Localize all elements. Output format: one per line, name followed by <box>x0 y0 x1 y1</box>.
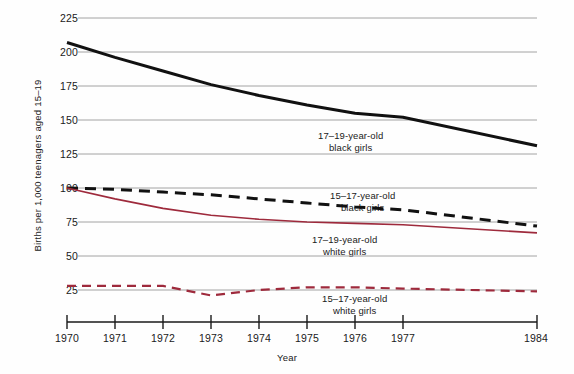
x-axis <box>67 315 537 329</box>
plot-area <box>0 0 574 374</box>
series-line-2 <box>67 188 537 233</box>
chart-container: Births per 1,000 teenagers aged 15–19 Ye… <box>0 0 574 374</box>
series-lines <box>67 43 537 296</box>
gridlines <box>78 18 537 290</box>
series-line-1 <box>67 188 537 226</box>
series-line-3 <box>67 286 537 296</box>
series-line-0 <box>67 43 537 146</box>
